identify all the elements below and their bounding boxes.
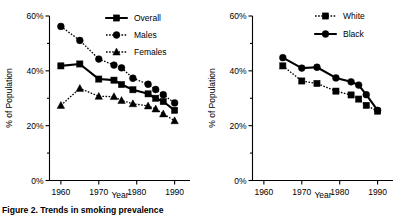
data-point [160, 110, 167, 117]
data-point [77, 61, 83, 67]
legend-label-black: Black [343, 29, 365, 39]
y-tick-label: 20% [229, 121, 246, 131]
data-point [355, 82, 362, 89]
data-point [356, 96, 362, 102]
y-tick-label: 0% [234, 176, 247, 186]
figure-container: 0%20%40%60% 1960197019801990 OverallMale… [0, 0, 406, 223]
x-tick-label: 1980 [330, 187, 349, 197]
chart-panel-left: 0%20%40%60% 1960197019801990 OverallMale… [0, 0, 203, 200]
left-legend: OverallMalesFemales [106, 13, 167, 57]
data-point [314, 64, 321, 71]
data-point [333, 88, 339, 94]
data-point [76, 84, 83, 91]
x-tick-label: 1980 [127, 187, 146, 197]
series-markers-overall [58, 61, 178, 114]
data-point [160, 91, 167, 98]
data-point [96, 76, 102, 82]
data-point [363, 91, 370, 98]
right-series-group [279, 54, 381, 114]
data-point [160, 98, 166, 104]
data-point [130, 75, 137, 82]
y-tick-label: 60% [229, 11, 246, 21]
data-point [299, 78, 305, 84]
left-y-ticks: 0%20%40%60% [26, 11, 49, 186]
x-tick-label: 1970 [89, 187, 108, 197]
chart-panel-right: 0%20%40%60% 1960197019801990 WhiteBlack … [203, 0, 406, 200]
data-point [363, 102, 369, 108]
data-point [57, 23, 64, 30]
data-point [111, 62, 118, 69]
x-tick-label: 1960 [254, 187, 273, 197]
right-x-axis-title: Year [314, 190, 331, 200]
left-y-axis-title: % of Population [4, 68, 14, 128]
x-tick-label: 1970 [292, 187, 311, 197]
data-point [118, 81, 124, 87]
y-tick-label: 40% [229, 66, 246, 76]
figure-caption: Figure 2. Trends in smoking prevalence [2, 205, 404, 223]
data-point [95, 56, 102, 63]
legend-marker-overall [113, 15, 119, 21]
legend-marker-white [322, 13, 328, 19]
y-tick-label: 60% [26, 11, 43, 21]
data-point [374, 107, 381, 114]
left-chart-svg: 0%20%40%60% 1960197019801990 OverallMale… [0, 0, 203, 200]
data-point [280, 63, 286, 69]
data-point [118, 64, 125, 71]
legend-label-males: Males [134, 30, 157, 40]
right-y-axis-title: % of Population [207, 68, 217, 128]
y-tick-label: 40% [26, 66, 43, 76]
legend-marker-males [113, 32, 120, 39]
data-point [314, 80, 320, 86]
y-tick-label: 0% [31, 176, 44, 186]
x-tick-label: 1960 [51, 187, 70, 197]
data-point [348, 78, 355, 85]
data-point [110, 93, 117, 100]
data-point [76, 37, 83, 44]
x-tick-label: 1990 [165, 187, 184, 197]
data-point [333, 75, 340, 82]
data-point [118, 97, 125, 104]
data-point [171, 100, 178, 107]
left-x-axis-title: Year [111, 190, 128, 200]
right-y-ticks: 0%20%40%60% [229, 11, 252, 186]
data-point [172, 107, 178, 113]
right-axis-lines [253, 16, 394, 181]
right-legend: WhiteBlack [315, 11, 365, 39]
legend-label-white: White [343, 11, 365, 21]
legend-marker-black [322, 31, 329, 38]
legend-label-females: Females [134, 47, 167, 57]
data-point [153, 95, 159, 101]
data-point [111, 77, 117, 83]
data-point [58, 63, 64, 69]
right-chart-svg: 0%20%40%60% 1960197019801990 WhiteBlack … [203, 0, 406, 200]
legend-label-overall: Overall [134, 13, 161, 23]
data-point [171, 117, 178, 124]
data-point [298, 65, 305, 72]
right-axes [253, 16, 394, 181]
y-tick-label: 20% [26, 121, 43, 131]
data-point [130, 87, 136, 93]
data-point [279, 54, 286, 61]
x-tick-label: 1990 [368, 187, 387, 197]
data-point [145, 91, 151, 97]
data-point [348, 92, 354, 98]
series-line-females [61, 88, 175, 120]
data-point [152, 86, 159, 93]
data-point [145, 81, 152, 88]
